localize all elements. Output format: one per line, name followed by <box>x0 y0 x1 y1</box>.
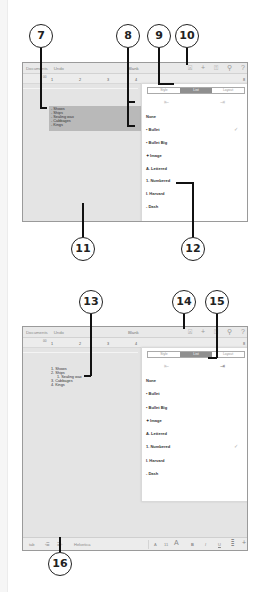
callout-15: 15 <box>205 290 229 314</box>
list-style-bullet[interactable]: • Bullet <box>146 391 246 404</box>
tab-key-button[interactable]: tab <box>29 542 35 547</box>
checkmark-icon: ✓ <box>234 444 238 449</box>
document-title: Blank <box>128 330 139 335</box>
wrench-icon[interactable]: ⚲ <box>227 64 232 72</box>
ruler-mark: 3 <box>107 78 109 82</box>
help-icon[interactable]: ? <box>241 328 245 336</box>
tab-style[interactable]: Style <box>148 352 180 357</box>
format-tabs: Style List Layout <box>147 87 245 94</box>
format-tabs: Style List Layout <box>147 351 245 358</box>
list-style-none[interactable]: None <box>146 114 246 127</box>
callout-14: 14 <box>172 290 196 314</box>
list-item: 4. Kings <box>51 383 82 387</box>
decrease-indent-icon[interactable]: ⇤ <box>164 98 169 105</box>
toolbar: Documents Undo Blank ⍓ + ⍐ ⚲ ? <box>23 327 247 338</box>
plus-icon[interactable]: + <box>201 328 205 336</box>
increase-indent-icon[interactable]: ⇥ <box>220 98 225 105</box>
list-style-image[interactable]: ✦ Image <box>146 153 246 166</box>
bullet-list[interactable]: - Shows - Ships - Sealing wax - Cabbages… <box>51 107 74 127</box>
list-style-bullet-big[interactable]: • Bullet Big <box>146 405 246 418</box>
plus-icon[interactable]: + <box>201 64 205 72</box>
list-style-numbered[interactable]: 1. Numbered✓ <box>146 444 246 457</box>
list-style-none[interactable]: None <box>146 378 246 391</box>
undo-button[interactable]: Undo <box>54 330 64 335</box>
document-title: Blank <box>128 66 139 71</box>
ruler-mark: 1 <box>51 78 53 82</box>
font-name-button[interactable]: Helvetica <box>74 542 90 547</box>
font-larger-button[interactable]: A <box>174 539 179 546</box>
ruler-mark: 4 <box>135 342 137 346</box>
documents-button[interactable]: Documents <box>26 66 48 71</box>
ruler-mark: 8 <box>243 78 245 82</box>
pages-screenshot-numbered-list: Documents Undo Blank ⍓ + ⍐ ⚲ ? 00 1 2 3 … <box>22 326 248 551</box>
ruler-mark: 1 <box>51 342 53 346</box>
format-brush-icon[interactable]: ⍓ <box>188 64 192 72</box>
ruler-mark: 4 <box>135 78 137 82</box>
list-style-options: None • Bullet • Bullet Big ✦ Image A. Le… <box>146 378 246 484</box>
ruler-mark: 2 <box>79 78 81 82</box>
callout-9: 10 <box>175 24 199 48</box>
list-style-lettered[interactable]: A. Lettered <box>146 166 246 179</box>
underline-button[interactable]: U <box>218 542 221 547</box>
list-style-image[interactable]: ✦ Image <box>146 418 246 431</box>
format-popover: Style List Layout ⇤ ⇥ None • Bullet • Bu… <box>141 347 248 502</box>
insert-plus-icon[interactable]: + <box>242 539 246 546</box>
font-smaller-button[interactable]: A <box>154 542 157 547</box>
ruler-mark: 3 <box>107 342 109 346</box>
italic-button[interactable]: I <box>205 542 206 547</box>
list-style-harvard[interactable]: I. Harvard <box>146 191 246 204</box>
font-size-label[interactable]: 11 <box>164 542 168 547</box>
callout-13: 13 <box>79 290 103 314</box>
callout-12: 11 <box>71 237 95 261</box>
checkmark-icon: ✓ <box>234 127 238 132</box>
list-style-harvard[interactable]: I. Harvard <box>146 458 246 471</box>
tab-layout[interactable]: Layout <box>212 88 244 93</box>
keyboard-shortcut-bar: tab ‹☰ ☰› Helvetica A 11 A B I U ≣ + <box>23 537 247 550</box>
outdent-icon[interactable]: ‹☰ <box>45 542 50 547</box>
callout-11: 12 <box>181 237 205 261</box>
list-style-numbered[interactable]: 1. Numbered <box>146 178 246 191</box>
list-style-lettered[interactable]: A. Lettered <box>146 431 246 444</box>
bold-button[interactable]: B <box>191 542 194 547</box>
callout-7: 7 <box>29 24 53 48</box>
ruler-mark: 8 <box>243 342 245 346</box>
tab-list[interactable]: List <box>180 88 212 93</box>
toolbar: Documents Undo Blank ⍓ + ⍐ ⚲ ? <box>23 63 247 74</box>
tab-style[interactable]: Style <box>148 88 180 93</box>
undo-button[interactable]: Undo <box>54 66 64 71</box>
list-style-options: None • Bullet✓ • Bullet Big ✦ Image A. L… <box>146 114 246 217</box>
share-icon[interactable]: ⍐ <box>214 64 218 72</box>
wrench-icon[interactable]: ⚲ <box>227 328 232 336</box>
callout-16: 16 <box>48 552 72 576</box>
decrease-indent-icon[interactable]: ⇤ <box>164 362 169 369</box>
callout-10: 9 <box>147 24 171 48</box>
indent-marker-label: 00 <box>43 339 47 343</box>
numbered-list[interactable]: 1. Shows 2. Ships 1. Sealing wax 3. Cabb… <box>51 367 82 387</box>
list-style-dash[interactable]: - Dash <box>146 204 246 217</box>
list-item: - Kings <box>51 123 74 127</box>
page-gutter <box>0 0 8 592</box>
format-brush-icon[interactable]: ⍓ <box>188 328 192 336</box>
indent-marker-label: 00 <box>43 75 47 79</box>
format-popover: Style List Layout ⇤ ⇥ None • Bullet✓ • B… <box>141 83 248 222</box>
list-style-bullet[interactable]: • Bullet✓ <box>146 127 246 140</box>
list-style-bullet-big[interactable]: • Bullet Big <box>146 140 246 153</box>
help-icon[interactable]: ? <box>241 64 245 72</box>
increase-indent-icon[interactable]: ⇥ <box>220 362 225 369</box>
list-style-dash[interactable]: - Dash <box>146 471 246 484</box>
pages-screenshot-bullet-list: Documents Undo Blank ⍓ + ⍐ ⚲ ? 00 1 2 3 … <box>22 62 248 222</box>
callout-8: 8 <box>116 24 140 48</box>
ruler-mark: 2 <box>79 342 81 346</box>
align-icon[interactable]: ≣ <box>231 542 234 547</box>
documents-button[interactable]: Documents <box>26 330 48 335</box>
